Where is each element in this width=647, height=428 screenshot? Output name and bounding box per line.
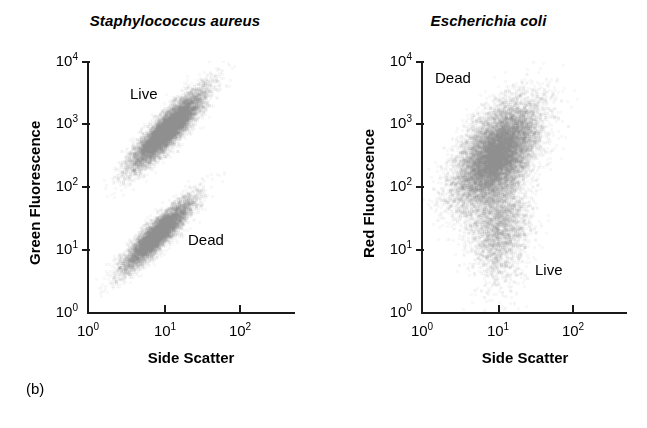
x-tick-10e1-staphylococcus <box>164 305 166 313</box>
plot-title-staphylococcus: Staphylococcus aureus <box>10 12 340 29</box>
y-tick-10e3-staphylococcus <box>82 123 90 125</box>
y-tick-label-10e3-escherichia: 103 <box>364 115 412 130</box>
x-tick-label-10e0-staphylococcus: 100 <box>64 323 112 338</box>
y-tick-10e1-staphylococcus <box>82 249 90 251</box>
x-tick-label-10e1-staphylococcus: 101 <box>141 323 189 338</box>
annotation-dead-escherichia: Dead <box>435 70 471 85</box>
y-tick-10e4-staphylococcus <box>82 61 90 63</box>
y-axis-title-escherichia: Red Fluorescence <box>360 129 377 258</box>
y-tick-label-10e0-staphylococcus: 100 <box>30 304 78 319</box>
annotation-live-escherichia: Live <box>535 262 563 277</box>
y-tick-label-10e4-staphylococcus: 104 <box>30 53 78 68</box>
x-tick-10e2-staphylococcus <box>239 305 241 313</box>
x-tick-label-10e2-staphylococcus: 102 <box>216 323 264 338</box>
y-tick-label-10e0-escherichia: 100 <box>364 304 412 319</box>
y-tick-10e4-escherichia <box>416 61 424 63</box>
x-axis-title-escherichia: Side Scatter <box>425 349 625 366</box>
x-tick-10e1-escherichia <box>498 305 500 313</box>
scatter-plot-area-staphylococcus <box>89 61 295 312</box>
annotation-live-staphylococcus: Live <box>130 86 158 101</box>
x-tick-10e2-escherichia <box>572 305 574 313</box>
y-tick-10e2-staphylococcus <box>82 186 90 188</box>
x-axis-line-staphylococcus <box>87 312 295 314</box>
figure-caption-label: (b) <box>26 381 44 396</box>
plot-panel-escherichia: Escherichia coli 104 103 102 101 100 100… <box>330 0 647 428</box>
x-tick-label-10e2-escherichia: 102 <box>549 323 597 338</box>
y-axis-title-staphylococcus: Green Fluorescence <box>26 121 43 265</box>
plot-panel-staphylococcus: Staphylococcus aureus 104 103 102 101 10… <box>0 0 330 428</box>
y-tick-10e2-escherichia <box>416 186 424 188</box>
y-tick-10e1-escherichia <box>416 249 424 251</box>
y-tick-label-10e4-escherichia: 104 <box>364 53 412 68</box>
y-tick-10e3-escherichia <box>416 123 424 125</box>
x-axis-title-staphylococcus: Side Scatter <box>91 349 291 366</box>
x-tick-label-10e0-escherichia: 100 <box>398 323 446 338</box>
plot-title-escherichia: Escherichia coli <box>330 12 647 29</box>
x-axis-line-escherichia <box>421 312 627 314</box>
annotation-dead-staphylococcus: Dead <box>188 232 224 247</box>
scatter-plot-area-escherichia <box>423 61 629 312</box>
x-tick-label-10e1-escherichia: 101 <box>474 323 522 338</box>
